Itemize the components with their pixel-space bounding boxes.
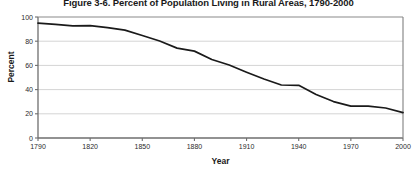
- figure-container: Figure 3-6. Percent of Population Living…: [0, 0, 417, 172]
- y-tick-label: 60: [25, 62, 33, 69]
- x-tick-label: 1880: [187, 143, 203, 150]
- gridlines: [38, 41, 403, 114]
- y-tick-labels: 020406080100: [21, 14, 33, 142]
- y-tick-label: 100: [21, 14, 33, 21]
- x-tick-label: 2000: [395, 143, 411, 150]
- x-tick-label: 1940: [291, 143, 307, 150]
- y-tick-label: 80: [25, 38, 33, 45]
- y-tick-label: 20: [25, 110, 33, 117]
- x-tick-labels: 17901820185018801910194019702000: [30, 143, 411, 150]
- data-series-line: [38, 23, 403, 112]
- y-tick-label: 0: [29, 135, 33, 142]
- x-tick-label: 1850: [134, 143, 150, 150]
- x-tick-label: 1820: [82, 143, 98, 150]
- plot-area: 020406080100 179018201850188019101940197…: [0, 0, 417, 172]
- x-tick-label: 1910: [239, 143, 255, 150]
- x-tick-label: 1790: [30, 143, 46, 150]
- x-tick-label: 1970: [343, 143, 359, 150]
- y-tick-label: 40: [25, 86, 33, 93]
